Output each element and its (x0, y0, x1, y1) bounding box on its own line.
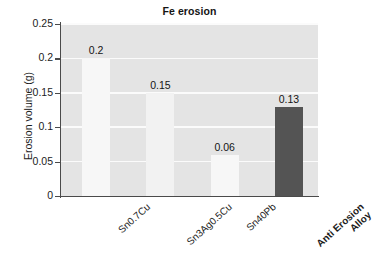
x-tick-label: Sn0.7Cu (116, 201, 152, 235)
x-tick-label: Sn40Pb (244, 201, 278, 233)
y-axis-line (60, 22, 61, 198)
bar-sn3ag0-5cu[interactable] (146, 93, 174, 196)
y-tick-mark (55, 93, 60, 94)
y-tick-label: 0.15 (3, 86, 53, 98)
bar-sn0-7cu[interactable] (82, 58, 110, 196)
bar-value-label: 0.2 (66, 44, 126, 56)
x-tick-label: Anti ErosionAlloy (314, 201, 373, 257)
bar-value-label: 0.13 (259, 93, 319, 105)
bar-value-label: 0.06 (195, 141, 255, 153)
y-tick-mark (55, 127, 60, 128)
x-tick-label-line1: Sn0.7Cu (116, 201, 152, 235)
y-tick-label: 0.1 (3, 120, 53, 132)
x-tick-label-line1: Sn40Pb (244, 201, 278, 233)
y-tick-label: 0.2 (3, 51, 53, 63)
bar-value-label: 0.15 (130, 79, 190, 91)
y-tick-mark (55, 162, 60, 163)
bar-sn40pb[interactable] (211, 155, 239, 196)
y-tick-label: 0 (3, 189, 53, 201)
x-axis-line (60, 196, 319, 197)
gridline (61, 23, 318, 25)
y-tick-mark (55, 196, 60, 197)
chart-title: Fe erosion (61, 5, 318, 17)
x-tick-label-line1: Sn3Ag0.5Cu (185, 201, 235, 247)
y-tick-mark (55, 24, 60, 25)
y-tick-label: 0.25 (3, 17, 53, 29)
bar-anti-erosion-alloy[interactable] (275, 107, 303, 196)
y-tick-label: 0.05 (3, 155, 53, 167)
y-tick-mark (55, 58, 60, 59)
x-tick-label: Sn3Ag0.5Cu (185, 201, 235, 247)
